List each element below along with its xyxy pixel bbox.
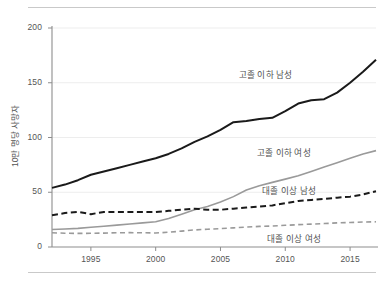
x-tick-label: 2005	[202, 254, 238, 264]
series-label-1: 고졸 이하 여성	[257, 146, 311, 158]
y-tick-label: 200	[16, 22, 42, 32]
chart-figure: 10만 명당 사망자 050100150200 1995200020052010…	[0, 0, 391, 284]
series-label-0: 고졸 이하 남성	[239, 68, 293, 80]
series-paths-group	[52, 60, 376, 234]
series-line-1	[52, 151, 376, 230]
line-chart-plot	[0, 0, 391, 284]
x-tick-label: 1995	[73, 254, 109, 264]
y-tick-label: 0	[16, 241, 42, 251]
x-tick-label: 2015	[332, 254, 368, 264]
x-tick-label: 2000	[138, 254, 174, 264]
series-label-2: 대졸 이상 남성	[262, 184, 316, 196]
series-label-3: 대졸 이상 여성	[267, 232, 321, 244]
series-line-2	[52, 191, 376, 215]
y-tick-label: 50	[16, 186, 42, 196]
x-tick-label: 2010	[267, 254, 303, 264]
gridlines-group	[52, 28, 376, 192]
y-tick-label: 150	[16, 77, 42, 87]
axes-group	[48, 26, 378, 251]
series-line-3	[52, 222, 376, 234]
series-line-0	[52, 60, 376, 188]
y-tick-label: 100	[16, 132, 42, 142]
